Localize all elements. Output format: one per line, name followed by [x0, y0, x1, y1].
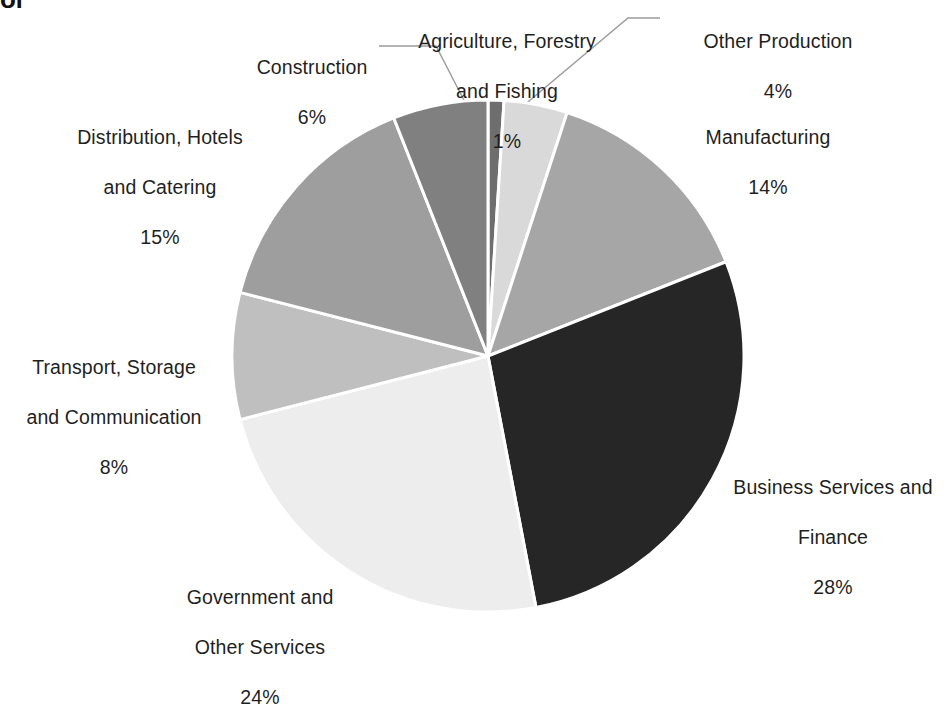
pie-label-manufacturing-pct: 14% [648, 175, 888, 200]
pie-label-agriculture-line2: and Fishing [396, 79, 618, 104]
pie-label-construction-pct: 6% [222, 105, 402, 130]
pie-label-agriculture-pct: 1% [396, 129, 618, 154]
pie-label-government-line2: Other Services [140, 635, 380, 660]
pie-label-business-services-line1: Business Services and [718, 475, 948, 500]
pie-label-manufacturing-line1: Manufacturing [648, 125, 888, 150]
pie-label-construction: Construction 6% [222, 30, 402, 155]
pie-label-government: Government and Other Services 24% [140, 560, 380, 708]
pie-label-transport-line2: and Communication [0, 405, 230, 430]
pie-label-distribution-line2: and Catering [44, 175, 276, 200]
pie-label-agriculture: Agriculture, Forestry and Fishing 1% [396, 4, 618, 179]
pie-label-agriculture-line1: Agriculture, Forestry [396, 29, 618, 54]
pie-label-business-services-line2: Finance [718, 525, 948, 550]
pie-label-transport-line1: Transport, Storage [0, 355, 230, 380]
pie-label-transport: Transport, Storage and Communication 8% [0, 330, 230, 505]
pie-label-construction-line1: Construction [222, 55, 402, 80]
pie-label-government-line1: Government and [140, 585, 380, 610]
pie-label-other-production-line1: Other Production [660, 29, 896, 54]
pie-label-transport-pct: 8% [0, 455, 230, 480]
pie-label-distribution-pct: 15% [44, 225, 276, 250]
pie-label-business-services-pct: 28% [718, 575, 948, 600]
pie-label-manufacturing: Manufacturing 14% [648, 100, 888, 225]
pie-label-business-services: Business Services and Finance 28% [718, 450, 948, 625]
pie-label-government-pct: 24% [140, 685, 380, 708]
